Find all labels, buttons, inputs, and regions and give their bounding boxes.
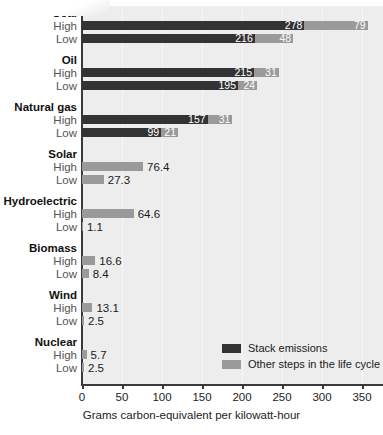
- x-tick: [202, 384, 204, 389]
- legend-swatch-icon-other: [222, 360, 241, 369]
- group-label-solar: Solar: [0, 148, 77, 160]
- bar-segment-stack: 216: [82, 34, 255, 43]
- bar-value-other: 27.3: [108, 174, 130, 186]
- x-tick: [162, 384, 164, 389]
- bar-segment-other: 79: [304, 21, 367, 30]
- group-label-nuclear: Nuclear: [0, 336, 77, 348]
- y-axis-line: [81, 6, 83, 384]
- bar-row: 21648: [0, 34, 383, 43]
- bar-segment-other: [82, 256, 95, 265]
- x-tick: [242, 384, 244, 389]
- bar-segment-other: 31: [254, 68, 279, 77]
- bar-row: 15731: [0, 115, 383, 124]
- plot-area: [82, 6, 383, 384]
- group-label-natural-gas: Natural gas: [0, 101, 77, 113]
- bar-segment-stack: 157: [82, 115, 208, 124]
- bar-segment-other: [82, 162, 143, 171]
- x-tick: [362, 384, 364, 389]
- chart-container: 050100150200250300350 CoalHighLowOilHigh…: [0, 0, 383, 435]
- bar-value-stack: 278: [285, 20, 303, 31]
- legend-label-stack: Stack emissions: [248, 342, 327, 354]
- bar-value-other: 21: [164, 127, 176, 138]
- x-tick-label: 350: [352, 391, 371, 403]
- bar-value-stack: 99: [148, 127, 160, 138]
- x-tick-label: 0: [79, 391, 85, 403]
- bar-row: 76.4: [0, 162, 383, 171]
- bar-segment-stack: 215: [82, 68, 254, 77]
- x-tick: [282, 384, 284, 389]
- bar-row: 2.5: [0, 316, 383, 325]
- bar-row: 27879: [0, 21, 383, 30]
- x-tick: [322, 384, 324, 389]
- bar-row: 64.6: [0, 209, 383, 218]
- gridline: [202, 6, 203, 384]
- group-label-biomass: Biomass: [0, 242, 77, 254]
- legend: Stack emissions Other steps in the life …: [222, 341, 380, 373]
- bar-segment-other: [82, 175, 104, 184]
- bar-value-other: 64.6: [138, 208, 160, 220]
- bar-value-other: 13.1: [96, 302, 118, 314]
- x-axis-line: [81, 384, 383, 386]
- bar-segment-other: [82, 363, 84, 372]
- bar-value-other: 2.5: [88, 362, 104, 374]
- bar-row: 8.4: [0, 269, 383, 278]
- bar-segment-other: 48: [255, 34, 293, 43]
- x-tick-label: 200: [232, 391, 251, 403]
- group-label-wind: Wind: [0, 289, 77, 301]
- bar-segment-other: [82, 350, 87, 359]
- bar-value-other: 31: [219, 114, 231, 125]
- x-axis-title: Grams carbon-equivalent per kilowatt-hou…: [0, 409, 383, 421]
- legend-item-stack-emissions: Stack emissions: [222, 341, 380, 355]
- bar-value-other: 31: [265, 67, 277, 78]
- bar-row: 16.6: [0, 256, 383, 265]
- legend-item-other-steps: Other steps in the life cycle: [222, 357, 380, 371]
- bar-segment-other: 24: [238, 81, 257, 90]
- bar-value-other: 79: [354, 20, 366, 31]
- bar-value-stack: 195: [218, 80, 236, 91]
- bar-segment-other: 21: [161, 128, 178, 137]
- bar-segment-stack: 195: [82, 81, 238, 90]
- bar-value-other: 5.7: [91, 349, 107, 361]
- bar-value-other: 48: [280, 33, 292, 44]
- bar-value-stack: 215: [234, 67, 252, 78]
- bar-segment-other: [82, 209, 134, 218]
- bar-value-other: 24: [244, 80, 256, 91]
- bar-segment-other: [82, 222, 83, 231]
- gridline: [362, 6, 363, 384]
- bar-value-stack: 216: [235, 33, 253, 44]
- x-tick: [122, 384, 124, 389]
- bar-segment-other: 31: [208, 115, 233, 124]
- bar-value-other: 76.4: [147, 161, 169, 173]
- gridline: [322, 6, 323, 384]
- bar-segment-other: [82, 303, 92, 312]
- bar-value-other: 8.4: [93, 268, 109, 280]
- bar-row: 9921: [0, 128, 383, 137]
- bar-value-other: 2.5: [88, 315, 104, 327]
- x-tick-label: 50: [116, 391, 129, 403]
- bar-row: 21531: [0, 68, 383, 77]
- bar-row: 13.1: [0, 303, 383, 312]
- group-label-coal: Coal: [0, 7, 77, 19]
- gridline: [242, 6, 243, 384]
- bar-value-stack: 157: [188, 114, 206, 125]
- legend-swatch-icon-stack: [222, 344, 241, 353]
- bar-row: 19524: [0, 81, 383, 90]
- bar-segment-stack: 278: [82, 21, 304, 30]
- x-tick-label: 100: [152, 391, 171, 403]
- gridline: [122, 6, 123, 384]
- gridline: [162, 6, 163, 384]
- bar-row: 27.3: [0, 175, 383, 184]
- x-tick-label: 150: [192, 391, 211, 403]
- bar-segment-other: [82, 316, 84, 325]
- group-label-oil: Oil: [0, 54, 77, 66]
- x-tick: [82, 384, 84, 389]
- group-label-hydroelectric: Hydroelectric: [0, 195, 77, 207]
- x-tick-label: 300: [312, 391, 331, 403]
- legend-label-other: Other steps in the life cycle: [248, 358, 380, 370]
- gridline: [282, 6, 283, 384]
- bar-value-other: 1.1: [87, 221, 103, 233]
- bar-segment-other: [82, 269, 89, 278]
- bar-value-other: 16.6: [99, 255, 121, 267]
- x-tick-label: 250: [272, 391, 291, 403]
- bar-segment-stack: 99: [82, 128, 161, 137]
